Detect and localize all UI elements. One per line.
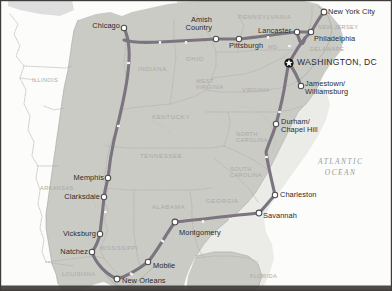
city-dot-new-york-city <box>321 9 327 15</box>
city-dot-savannah <box>256 210 262 216</box>
city-dot-durham <box>273 121 278 126</box>
city-dot-mobile <box>145 259 150 264</box>
city-dot-memphis <box>105 175 110 180</box>
map-canvas <box>0 0 392 291</box>
city-dot-williamsburg <box>298 83 303 88</box>
map-bottom-bar <box>0 286 392 291</box>
city-dot-charleston <box>272 192 277 197</box>
city-dot-vicksburg <box>97 231 102 236</box>
city-dot-montgomery <box>172 219 178 225</box>
capital-marker-washington-dc[interactable] <box>284 58 293 67</box>
city-dot-natchez <box>89 249 94 254</box>
route-map[interactable]: ILLINOISINDIANAOHIOPENNSYLVANIANEW JERSE… <box>0 0 392 291</box>
city-dot-amish-country <box>213 36 218 41</box>
city-dot-pittsburgh <box>236 36 241 41</box>
city-dot-philadelphia <box>308 29 313 34</box>
city-dot-clarksdale <box>101 194 106 199</box>
city-dot-new-orleans <box>114 276 120 282</box>
city-dot-chicago <box>121 25 126 30</box>
city-dot-lancaster <box>294 29 299 34</box>
